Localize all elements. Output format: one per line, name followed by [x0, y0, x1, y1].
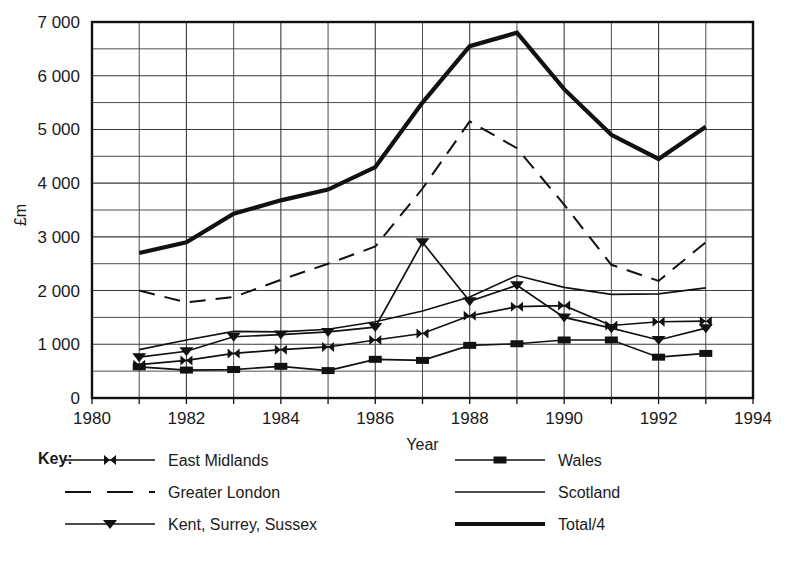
legend-label-greater-london[interactable]: Greater London: [168, 484, 280, 501]
data-point-marker: [369, 356, 382, 363]
x-axis-tick-label: 1994: [734, 409, 772, 428]
data-point-marker: [104, 455, 116, 465]
data-point-marker: [652, 354, 665, 361]
data-point-marker: [463, 342, 476, 349]
data-point-marker: [274, 363, 287, 370]
y-axis-tick-label: 4 000: [37, 174, 80, 193]
x-axis-title: Year: [406, 436, 439, 453]
data-point-marker: [510, 340, 523, 347]
data-point-marker: [322, 367, 335, 374]
legend-sample-kent-surrey-sussex: [65, 520, 155, 529]
data-point-marker: [494, 457, 507, 464]
data-point-marker: [416, 357, 429, 364]
x-axis-tick-label: 1990: [545, 409, 583, 428]
chart-container: 1980198219841986198819901992199401 0002 …: [0, 0, 802, 567]
data-point-marker: [227, 366, 240, 373]
legend-label-kent-surrey-sussex[interactable]: Kent, Surrey, Sussex: [168, 516, 317, 533]
y-axis-tick-label: 3 000: [37, 228, 80, 247]
legend-title: Key:: [38, 450, 73, 467]
data-point-marker: [133, 363, 146, 370]
x-axis-tick-label: 1988: [451, 409, 489, 428]
y-axis-tick-label: 6 000: [37, 67, 80, 86]
y-axis-tick-label: 7 000: [37, 13, 80, 32]
x-axis-tick-label: 1992: [640, 409, 678, 428]
y-axis-tick-label: 2 000: [37, 282, 80, 301]
y-axis-tick-label: 5 000: [37, 120, 80, 139]
line-chart: 1980198219841986198819901992199401 0002 …: [0, 0, 802, 567]
x-axis-tick-label: 1980: [73, 409, 111, 428]
x-axis-tick-label: 1984: [262, 409, 300, 428]
x-axis-tick-label: 1982: [168, 409, 206, 428]
legend-sample-east-midlands: [65, 455, 155, 465]
data-point-marker: [652, 336, 666, 345]
legend-label-east-midlands[interactable]: East Midlands: [168, 452, 269, 469]
data-point-marker: [180, 367, 193, 374]
data-point-marker: [605, 336, 618, 343]
data-point-marker: [558, 336, 571, 343]
y-axis-title: £m: [12, 204, 29, 226]
legend-label-total-4[interactable]: Total/4: [558, 516, 605, 533]
legend-label-scotland[interactable]: Scotland: [558, 484, 620, 501]
legend-label-wales[interactable]: Wales: [558, 452, 602, 469]
y-axis-tick-label: 1 000: [37, 335, 80, 354]
legend-sample-wales: [455, 457, 545, 464]
data-point-marker: [699, 350, 712, 357]
data-point-marker: [416, 238, 430, 247]
y-axis-tick-label: 0: [71, 389, 80, 408]
x-axis-tick-label: 1986: [356, 409, 394, 428]
